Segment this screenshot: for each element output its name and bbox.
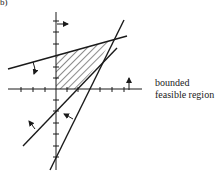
steep-boundary-line [50, 20, 124, 170]
steep-line-arrow-icon [64, 114, 73, 119]
caption-line-1: bounded [155, 77, 189, 88]
caption-line-2: feasible region [155, 89, 214, 100]
upper-line-arrow-icon [33, 62, 35, 74]
lower-line-arrow-icon [29, 121, 35, 129]
